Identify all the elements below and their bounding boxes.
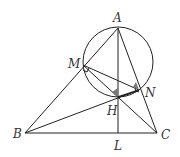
label-A: A [112,11,122,25]
label-M: M [67,57,81,71]
geometry-diagram: A M N H B C L [0,0,180,157]
label-B: B [12,127,22,141]
label-L: L [113,139,122,153]
segment-HN [118,90,139,97]
segment-MN [83,65,139,90]
label-N: N [144,86,156,100]
label-H: H [106,104,118,118]
segment-AC [118,28,157,133]
label-C: C [161,128,170,142]
segment-AB [25,28,118,133]
shaded-angle-H [112,88,118,97]
